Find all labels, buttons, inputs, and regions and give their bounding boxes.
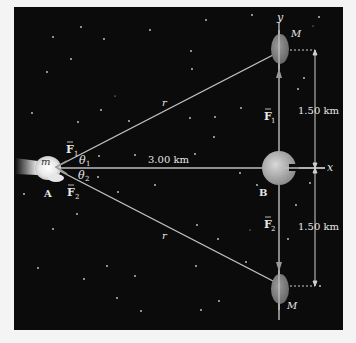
mass-label-m-bottom: M (286, 300, 298, 311)
x-axis-label: x (327, 161, 334, 174)
svg-text:θ: θ (78, 169, 85, 182)
spacecraft-a (15, 156, 64, 182)
r-line-upper (56, 55, 273, 167)
force-f2-label-left: F 2 (67, 185, 79, 201)
distance-r-upper: r (162, 97, 168, 108)
force-f1-label-right: F 1 (264, 109, 275, 125)
svg-text:1: 1 (86, 160, 90, 168)
distance-r-lower: r (162, 230, 168, 241)
svg-text:2: 2 (271, 225, 275, 233)
mass-label-m-top: M (290, 28, 302, 39)
distance-upper-vertical: 1.50 km (298, 105, 340, 116)
point-label-b: B (259, 187, 267, 198)
angle-theta1: θ 1 (79, 154, 90, 168)
svg-text:1: 1 (271, 117, 275, 125)
force-f2-label-right: F 2 (264, 217, 275, 233)
force-f1-label-left: F 1 (66, 142, 78, 158)
force-arrow-up (276, 68, 282, 78)
svg-text:F: F (66, 143, 74, 156)
planet-b (262, 151, 325, 185)
diagram-canvas: x y m A F 1 F 2 θ 1 θ 2 3.00 km r r (0, 0, 356, 343)
y-axis-label: y (276, 11, 284, 24)
svg-text:2: 2 (75, 193, 79, 201)
svg-text:1: 1 (74, 150, 78, 158)
svg-text:2: 2 (85, 175, 89, 183)
svg-text:θ: θ (79, 154, 86, 167)
point-label-a: A (43, 188, 52, 199)
asteroid-top (271, 30, 289, 70)
distance-horizontal: 3.00 km (148, 154, 190, 165)
force-arrow-down (276, 262, 282, 272)
svg-text:F: F (67, 186, 75, 199)
mass-label-m: m (41, 156, 50, 167)
angle-theta2: θ 2 (78, 169, 89, 183)
r-line-lower (56, 169, 273, 281)
distance-lower-vertical: 1.50 km (298, 221, 340, 232)
